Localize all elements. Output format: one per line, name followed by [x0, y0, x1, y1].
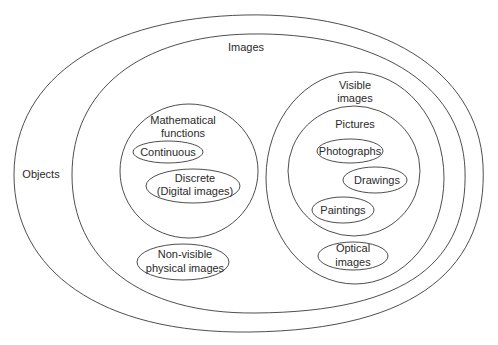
- mathematical-functions-label-line2: functions: [161, 127, 206, 139]
- continuous-label: Continuous: [140, 146, 196, 158]
- images-label: Images: [228, 41, 265, 53]
- set-non-visible-physical-images: Non-visible physical images: [137, 244, 229, 280]
- paintings-label: Paintings: [320, 204, 366, 216]
- set-continuous: Continuous: [133, 141, 203, 163]
- objects-label: Objects: [22, 168, 60, 180]
- images-boundary: [72, 34, 465, 313]
- set-drawings: Drawings: [343, 167, 407, 193]
- set-mathematical-functions: Mathematical functions Continuous Discre…: [120, 104, 258, 238]
- non-visible-physical-images-label-line1: Non-visible: [158, 248, 212, 260]
- photographs-label: Photographs: [319, 145, 382, 157]
- objects-boundary: [14, 15, 483, 332]
- drawings-label: Drawings: [354, 174, 400, 186]
- set-optical-images: Optical images: [318, 242, 388, 270]
- visible-images-label-line2: images: [337, 92, 373, 104]
- optical-images-label-line2: images: [335, 256, 371, 268]
- non-visible-physical-images-label-line2: physical images: [146, 262, 225, 274]
- pictures-label: Pictures: [335, 118, 375, 130]
- mathematical-functions-label-line1: Mathematical: [150, 114, 215, 126]
- set-visible-images: Visible images Pictures Photographs Draw…: [266, 72, 444, 284]
- set-images: Images: [72, 34, 465, 313]
- optical-images-label-line1: Optical: [336, 242, 370, 254]
- set-photographs: Photographs: [317, 139, 383, 163]
- discrete-label-line1: Discrete: [175, 172, 215, 184]
- set-pictures: Pictures Photographs Drawings Paintings: [288, 106, 420, 236]
- discrete-label-line2: (Digital images): [157, 185, 233, 197]
- visible-images-label-line1: Visible: [339, 79, 371, 91]
- image-taxonomy-diagram: Objects Images Mathematical functions Co…: [0, 0, 498, 345]
- set-paintings: Paintings: [312, 197, 374, 223]
- set-objects: Objects: [14, 15, 483, 332]
- set-discrete: Discrete (Digital images): [146, 169, 240, 203]
